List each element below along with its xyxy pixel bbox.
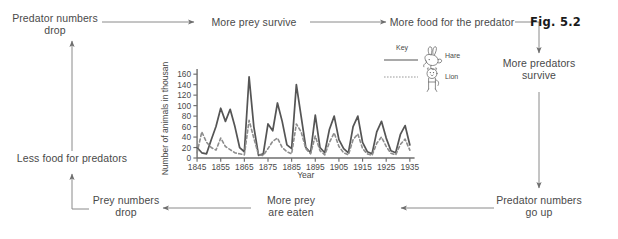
- series-line-hare: [197, 77, 410, 156]
- flow-node-more-prey-survive: More prey survive: [196, 16, 312, 28]
- x-tick-label: 1905: [330, 162, 349, 172]
- figure-canvas: Predator numbers drop More prey survive …: [0, 0, 618, 239]
- x-tick-label: 1865: [235, 162, 254, 172]
- x-tick-label: 1915: [353, 162, 372, 172]
- y-tick-label: 140: [177, 80, 191, 90]
- population-chart: 020406080100120140160 184518551865187518…: [146, 62, 424, 180]
- y-tick-label: 80: [182, 111, 192, 121]
- figure-label: Fig. 5.2: [530, 15, 581, 29]
- x-tick-label: 1845: [188, 162, 207, 172]
- flow-node-predator-numbers-go-up: Predator numbers go up: [486, 194, 592, 218]
- y-tick-label: 60: [182, 122, 192, 132]
- lion-illustration: [427, 68, 439, 92]
- x-axis-title: Year: [297, 170, 314, 180]
- y-axis-title: Number of animals in thousands: [160, 62, 170, 175]
- flow-node-less-food-for-predators: Less food for predators: [8, 152, 136, 164]
- flow-node-more-food-for-predator: More food for the predator: [386, 16, 518, 28]
- y-tick-label: 20: [182, 143, 192, 153]
- flow-node-more-prey-are-eaten: More prey are eaten: [252, 194, 330, 218]
- hare-illustration: [424, 47, 442, 70]
- flow-node-predator-numbers-drop: Predator numbers drop: [2, 12, 108, 36]
- legend-label-hare: Hare: [445, 52, 460, 59]
- y-tick-label: 40: [182, 132, 192, 142]
- flow-node-prey-numbers-drop: Prey numbers drop: [84, 194, 168, 218]
- y-tick-label: 100: [177, 101, 191, 111]
- flow-node-more-predators-survive: More predators survive: [486, 57, 592, 81]
- series-line-lion: [197, 120, 410, 155]
- x-tick-label: 1925: [377, 162, 396, 172]
- x-tick-label: 1935: [401, 162, 420, 172]
- y-tick-label: 160: [177, 69, 191, 79]
- y-tick-label: 120: [177, 90, 191, 100]
- x-tick-label: 1875: [259, 162, 278, 172]
- x-tick-label: 1855: [211, 162, 230, 172]
- y-axis-ticks: 020406080100120140160: [177, 69, 197, 163]
- legend-label-lion: Lion: [445, 73, 458, 80]
